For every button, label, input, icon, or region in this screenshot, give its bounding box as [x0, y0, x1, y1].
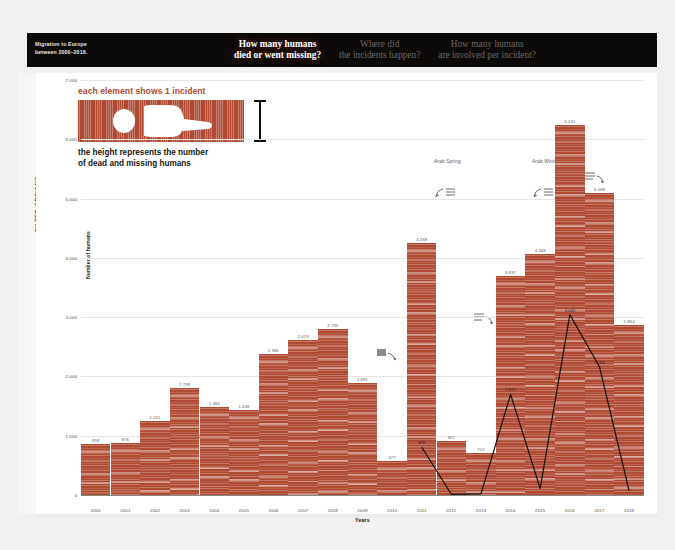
x-axis-tick-2009: 2009 — [348, 508, 377, 513]
x-axis-tick-2011: 2011 — [407, 508, 436, 513]
y-axis-tick-label: 6.000 — [66, 137, 78, 142]
x-axis-tick-2013: 2013 — [466, 508, 495, 513]
x-axis-tick-2016: 2016 — [555, 508, 584, 513]
x-axis-tick-2012: 2012 — [437, 508, 466, 513]
brand-title: Migration to Europe between 2000–2018. — [35, 41, 185, 56]
x-axis-tick-2002: 2002 — [140, 508, 169, 513]
x-axis-tick-2000: 2000 — [81, 508, 110, 513]
line-value-label: 809 — [418, 440, 425, 445]
chart-panel: each element shows 1 incident the height… — [36, 73, 657, 514]
x-axis-tick-2010: 2010 — [377, 508, 406, 513]
panel-bottom-strip — [36, 514, 657, 518]
nav-tab-deaths-line2: died or went missing? — [234, 50, 321, 61]
incident-count-line — [81, 80, 644, 505]
x-axis-tick-2008: 2008 — [318, 508, 347, 513]
x-axis-tick-2004: 2004 — [200, 508, 229, 513]
nav-tab-locations-line1: Where did — [339, 39, 420, 50]
plot-area: Number of humans 01.0002.0003.0004.0005.… — [81, 80, 644, 505]
y-axis-tick-label: 7.000 — [66, 78, 78, 83]
overlay-line-path — [422, 315, 629, 495]
brand-line-2: between 2000–2018. — [35, 49, 185, 57]
x-axis-tick-2015: 2015 — [525, 508, 554, 513]
x-axis-tick-2001: 2001 — [111, 508, 140, 513]
line-value-label: 3.043 — [565, 308, 575, 313]
line-value-label: 1.697 — [505, 387, 515, 392]
y-axis-tick-label: 4.000 — [66, 256, 78, 261]
x-axis-tick-2006: 2006 — [259, 508, 288, 513]
y-axis-tick-label: 0 — [74, 493, 77, 498]
y-axis-tick-label: 5.000 — [66, 197, 78, 202]
y-axis-tick-label: 2.000 — [66, 374, 78, 379]
x-axis-tick-2014: 2014 — [496, 508, 525, 513]
nav-tab-locations[interactable]: Where did the incidents happen? — [330, 39, 429, 62]
filter-options-rail[interactable]: › FILTER OPTIONS — [19, 73, 37, 514]
y-axis-tick-label: 3.000 — [66, 315, 78, 320]
line-value-label: 2.163 — [594, 360, 604, 365]
x-axis-tick-2007: 2007 — [288, 508, 317, 513]
x-axis-tick-2017: 2017 — [585, 508, 614, 513]
nav-tab-deaths[interactable]: How many humans died or went missing? — [225, 39, 330, 62]
x-axis-tick-2018: 2018 — [614, 508, 643, 513]
main-nav: How many humans died or went missing? Wh… — [225, 34, 645, 66]
nav-tab-per-incident-line2: are involved per incident? — [438, 50, 536, 61]
y-axis-tick-label: 1.000 — [66, 434, 78, 439]
nav-tab-locations-line2: the incidents happen? — [339, 50, 420, 61]
nav-tab-per-incident-line1: How many humans — [438, 39, 536, 50]
x-axis-tick-2005: 2005 — [229, 508, 258, 513]
app-root: Migration to Europe between 2000–2018. H… — [0, 0, 675, 550]
brand-line-1: Migration to Europe — [35, 41, 185, 49]
nav-tab-deaths-line1: How many humans — [234, 39, 321, 50]
nav-tab-per-incident[interactable]: How many humans are involved per inciden… — [429, 39, 545, 62]
x-axis-tick-2003: 2003 — [170, 508, 199, 513]
